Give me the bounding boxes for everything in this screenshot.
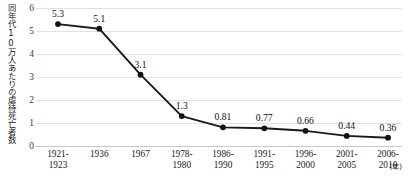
x-tick-label: 2006-2010 — [365, 149, 409, 171]
line-chart: 同年代10万人あたりの虐待死亡者数 6543210 5.35.13.11.30.… — [0, 0, 409, 185]
x-tick-label-line1: 1991- — [253, 149, 275, 159]
data-value-label: 0.66 — [297, 115, 314, 126]
y-axis-tick-labels: 6543210 — [10, 8, 34, 146]
data-point-marker — [179, 113, 185, 119]
data-value-label: 5.3 — [52, 8, 64, 19]
data-value-label: 1.3 — [176, 100, 188, 111]
data-value-label: 5.1 — [93, 13, 105, 24]
data-point-marker — [96, 26, 102, 32]
x-tick-label-line2: 2010 — [365, 160, 409, 171]
x-tick-label: 1986-1990 — [200, 149, 246, 171]
data-point-marker — [385, 135, 391, 141]
x-tick-label: 1967 — [118, 149, 164, 160]
data-point-marker — [303, 128, 309, 134]
data-value-label: 0.36 — [380, 122, 397, 133]
y-tick-label-1: 1 — [12, 118, 34, 128]
y-tick-label-4: 4 — [12, 49, 34, 59]
x-tick-label-line2: 1990 — [200, 160, 246, 171]
x-tick-label-line1: 1936 — [90, 149, 109, 159]
plot-area: 5.35.13.11.30.810.770.660.440.36 — [36, 8, 402, 146]
x-tick-label: 1978-1980 — [159, 149, 205, 171]
x-tick-label: 2001-2005 — [324, 149, 370, 171]
data-value-label: 0.81 — [215, 111, 232, 122]
x-tick-label-line1: 1921- — [47, 149, 69, 159]
x-tick-label-line2: 1995 — [241, 160, 287, 171]
x-tick-label: 1921-1923 — [35, 149, 81, 171]
data-point-marker — [55, 21, 61, 27]
x-tick-label: 1996-2000 — [283, 149, 329, 171]
x-tick-label-line2: 2000 — [283, 160, 329, 171]
data-value-label: 0.44 — [338, 120, 355, 131]
x-tick-label-line1: 1967 — [131, 149, 150, 159]
y-tick-label-5: 5 — [12, 26, 34, 36]
x-tick-label-line1: 1996- — [295, 149, 317, 159]
data-point-marker — [344, 133, 350, 139]
x-tick-label: 1936 — [76, 149, 122, 160]
data-point-marker — [220, 124, 226, 130]
data-point-marker — [261, 125, 267, 131]
x-tick-label-line1: 1986- — [212, 149, 234, 159]
x-tick-label-line1: 2006- — [377, 149, 399, 159]
x-tick-label-line2: 1923 — [35, 160, 81, 171]
x-axis-tick-labels: (年) 1921-1923193619671978-19801986-19901… — [36, 149, 402, 183]
x-tick-label-line1: 2001- — [336, 149, 358, 159]
data-point-marker — [138, 72, 144, 78]
y-tick-label-6: 6 — [12, 3, 34, 13]
x-tick-label-line1: 1978- — [171, 149, 193, 159]
x-tick-label-line2: 1980 — [159, 160, 205, 171]
y-tick-label-2: 2 — [12, 95, 34, 105]
x-tick-label: 1991-1995 — [241, 149, 287, 171]
y-tick-label-3: 3 — [12, 72, 34, 82]
x-tick-label-line2: 2005 — [324, 160, 370, 171]
gridline-0 — [36, 146, 402, 147]
y-tick-label-0: 0 — [12, 141, 34, 151]
data-value-label: 3.1 — [135, 59, 147, 70]
data-value-label: 0.77 — [256, 112, 273, 123]
